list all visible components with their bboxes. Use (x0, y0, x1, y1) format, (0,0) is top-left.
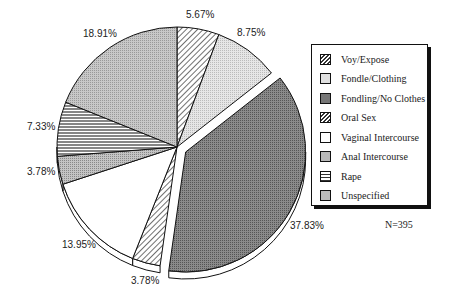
label-vaginal: 13.95% (62, 239, 96, 250)
swatch-diag-icon (320, 112, 331, 123)
swatch-diag-icon (320, 54, 331, 65)
swatch-light-icon (320, 73, 331, 84)
sample-size-label: N=395 (385, 219, 413, 230)
legend-item-vaginal: Vaginal Intercourse (320, 130, 419, 144)
swatch-dark-icon (320, 93, 331, 104)
swatch-white-icon (320, 132, 331, 143)
label-voy: 5.67% (186, 9, 214, 20)
legend-item-oral-sex: Oral Sex (320, 110, 376, 124)
label-fondle-clothing: 8.75% (237, 27, 265, 38)
legend-item-voy: Voy/Expose (320, 52, 389, 66)
label-unspecified: 18.91% (83, 28, 117, 39)
legend-item-fondle-clothing: Fondle/Clothing (320, 71, 407, 85)
swatch-medium-icon (320, 151, 331, 162)
label-anal: 3.78% (27, 166, 55, 177)
swatch-horizontal-icon (320, 171, 331, 182)
legend-item-unspecified: Unspecified (320, 188, 389, 202)
legend-item-fondling-no-clothes: Fondling/No Clothes (320, 91, 425, 105)
legend-item-anal: Anal Intercourse (320, 149, 408, 163)
label-oral: 3.78% (131, 275, 159, 286)
label-rape: 7.33% (27, 121, 55, 132)
legend: Voy/Expose Fondle/Clothing Fondling/No C… (311, 44, 428, 206)
legend-item-rape: Rape (320, 169, 362, 183)
swatch-unspecified-icon (320, 190, 331, 201)
label-fondling-no-clothes: 37.83% (290, 220, 324, 231)
